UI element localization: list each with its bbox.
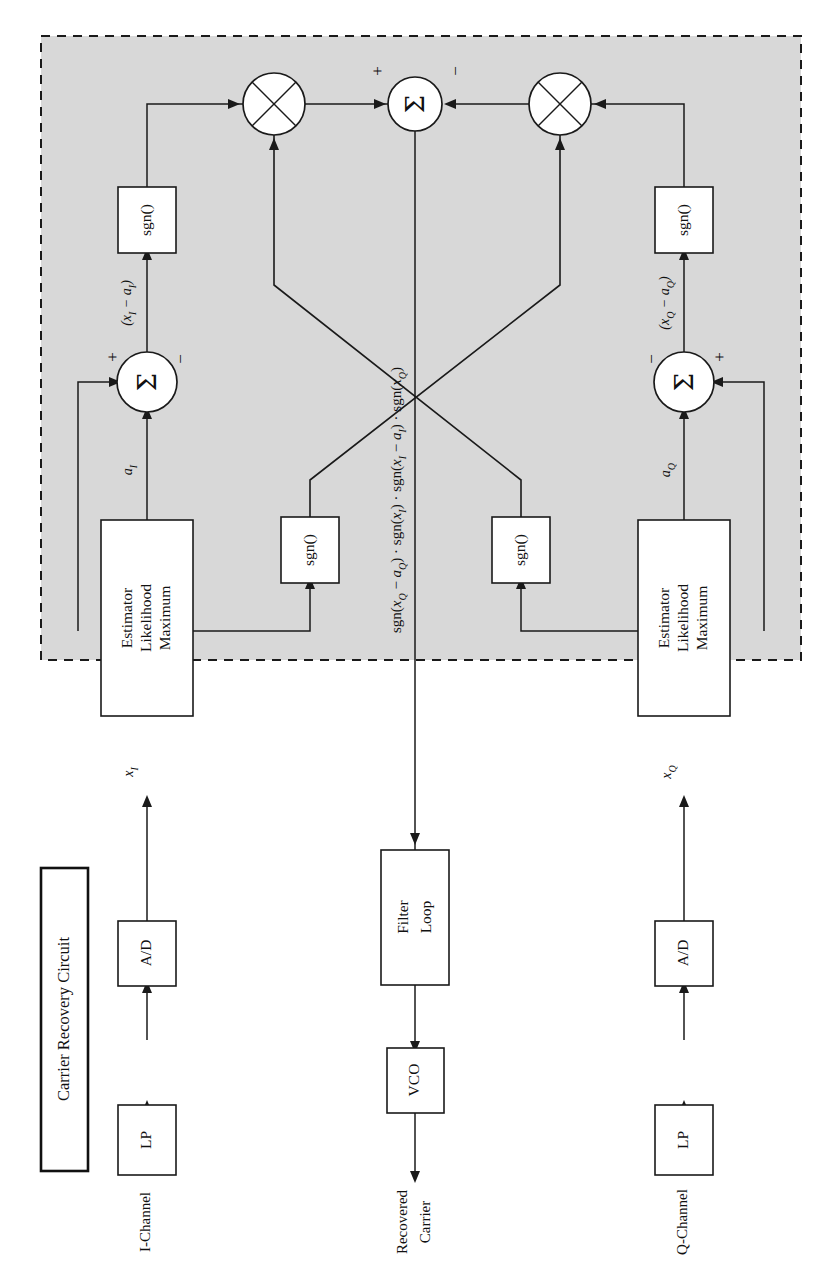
ad-block-q-label: A/D xyxy=(674,940,691,967)
multiplier-right[interactable] xyxy=(529,73,591,135)
multiplier-left[interactable] xyxy=(243,73,305,135)
lp-block-q-label: LP xyxy=(674,1131,691,1149)
mle-block-q-line1: Maximum xyxy=(693,586,710,651)
input-label-i-channel: I-Channel xyxy=(137,1192,153,1252)
loop-filter-line2: Filter xyxy=(394,899,411,933)
mle-block-i-line3: Estimator xyxy=(118,587,135,648)
summing-node-i-minus: − xyxy=(171,354,190,364)
mle-block-q-line3: Estimator xyxy=(655,587,672,648)
vco-block-label: VCO xyxy=(405,1064,422,1097)
ad-block-i-label: A/D xyxy=(137,940,154,967)
mle-block-q-line2: Likelihood xyxy=(674,584,691,652)
summing-node-q-minus: − xyxy=(642,354,661,364)
summing-node-q-symbol: Σ xyxy=(669,373,699,391)
legend-title: Carrier Recovery Circuit xyxy=(54,937,73,1101)
signal-label-x-i: xI xyxy=(121,767,140,778)
figure-canvas: sgn() Maximum Likelihood Estimator sgn()… xyxy=(0,0,831,1278)
mle-block-i-line1: Maximum xyxy=(156,586,173,651)
signal-label-x-q: xQ xyxy=(659,765,678,780)
mle-block-i-line2: Likelihood xyxy=(137,584,154,652)
summing-node-i-symbol: Σ xyxy=(132,373,162,391)
carrier-recovery-diagram: sgn() Maximum Likelihood Estimator sgn()… xyxy=(0,0,831,1278)
lp-block-i-label: LP xyxy=(137,1131,154,1149)
output-label-recovered-line2: Carrier xyxy=(417,1201,433,1243)
sgn-block-outer-i-label: sgn() xyxy=(137,204,155,236)
input-label-q-channel: Q-Channel xyxy=(674,1189,690,1255)
summing-node-center-symbol: Σ xyxy=(400,95,430,113)
output-label-recovered-line1: Recovered xyxy=(394,1189,410,1254)
sgn-block-inner-q-label: sgn() xyxy=(511,534,529,566)
summing-node-q-plus: + xyxy=(710,352,729,362)
summing-node-i-plus: + xyxy=(103,352,122,362)
sgn-block-outer-q-label: sgn() xyxy=(674,204,692,236)
summing-node-center-plus: + xyxy=(368,66,387,76)
loop-filter-line1: Loop xyxy=(417,900,434,933)
sgn-block-inner-i-label: sgn() xyxy=(300,534,318,566)
loop-filter-block[interactable] xyxy=(381,850,449,985)
summing-node-center-minus: − xyxy=(446,66,465,76)
